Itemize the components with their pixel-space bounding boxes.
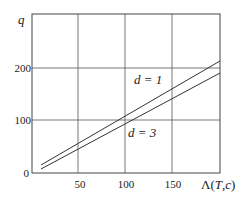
x-tick-50: 50 <box>75 178 87 190</box>
y-axis-label: q <box>18 12 25 27</box>
y-tick-200: 200 <box>15 62 32 74</box>
chart: 0 100 200 q 50 100 150 Λ(T,c) d = 1 d = … <box>0 0 247 197</box>
series-d1-line <box>41 61 220 165</box>
x-axis-label: Λ(T,c) <box>201 177 235 192</box>
x-tick-150: 150 <box>165 178 182 190</box>
x-tick-100: 100 <box>118 178 135 190</box>
annotation-d3: d = 3 <box>128 125 157 140</box>
y-tick-100: 100 <box>15 114 32 126</box>
annotation-d1: d = 1 <box>134 72 162 87</box>
y-tick-0: 0 <box>24 167 30 179</box>
plot-frame <box>32 14 220 173</box>
series-d3-line <box>41 73 220 169</box>
